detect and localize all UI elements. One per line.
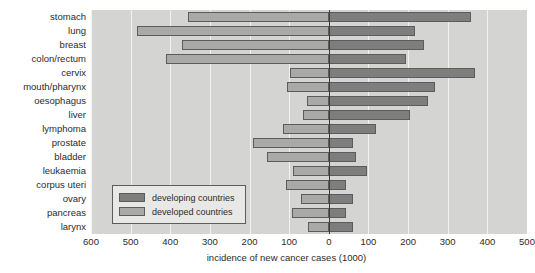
bar-developed-larynx: [308, 222, 329, 232]
bar-developed-ovary: [301, 194, 329, 204]
bar-developed-prostate: [253, 138, 329, 148]
y-label-leukaemia: leukaemia: [0, 165, 86, 176]
bar-row: [91, 166, 527, 179]
bar-developing-oesophagus: [329, 96, 428, 106]
x-tick-200-right: 200: [400, 236, 416, 247]
bar-row: [91, 82, 527, 95]
x-tick-200-left: 200: [242, 236, 258, 247]
zero-axis-line: [329, 10, 330, 234]
bar-row: [91, 124, 527, 137]
y-label-corpus-uteri: corpus uteri: [0, 179, 86, 190]
bar-developed-pancreas: [292, 208, 329, 218]
y-label-lung: lung: [0, 25, 86, 36]
bar-developed-oesophagus: [307, 96, 329, 106]
x-tick-500-right: 500: [519, 236, 535, 247]
x-tick-400-right: 400: [479, 236, 495, 247]
bar-developing-stomach: [329, 12, 471, 22]
bar-developing-leukaemia: [329, 166, 367, 176]
bar-developing-breast: [329, 40, 425, 50]
x-tick-500-left: 500: [123, 236, 139, 247]
bar-developed-colon-rectum: [166, 54, 329, 64]
x-tick-600-left: 600: [83, 236, 99, 247]
x-tick-100-right: 100: [361, 236, 377, 247]
bar-developed-liver: [303, 110, 329, 120]
y-label-mouth-pharynx: mouth/pharynx: [0, 81, 86, 92]
y-label-bladder: bladder: [0, 151, 86, 162]
legend-swatch-developed: [119, 207, 145, 216]
y-label-breast: breast: [0, 39, 86, 50]
y-label-liver: liver: [0, 109, 86, 120]
legend-swatch-developing: [119, 193, 145, 202]
bar-row: [91, 110, 527, 123]
bar-row: [91, 96, 527, 109]
bar-developing-lung: [329, 26, 415, 36]
bar-developed-lymphoma: [283, 124, 329, 134]
bar-developed-mouth-pharynx: [287, 82, 329, 92]
bar-row: [91, 54, 527, 67]
y-label-cervix: cervix: [0, 67, 86, 78]
bar-row: [91, 40, 527, 53]
y-axis-category-labels: stomachlungbreastcolon/rectumcervixmouth…: [0, 10, 86, 234]
bar-developing-mouth-pharynx: [329, 82, 435, 92]
bar-row: [91, 138, 527, 151]
bar-developing-liver: [329, 110, 411, 120]
bar-developing-cervix: [329, 68, 475, 78]
x-tick-400-left: 400: [162, 236, 178, 247]
x-tick-300-right: 300: [440, 236, 456, 247]
bar-developed-bladder: [267, 152, 329, 162]
legend-label-developed: developed countries: [152, 207, 233, 217]
legend-item-developed: developed countries: [119, 205, 239, 218]
bar-developing-pancreas: [329, 208, 346, 218]
bar-developed-leukaemia: [293, 166, 329, 176]
bar-developing-ovary: [329, 194, 354, 204]
y-label-oesophagus: oesophagus: [0, 95, 86, 106]
bar-developed-corpus-uteri: [286, 180, 329, 190]
y-label-pancreas: pancreas: [0, 207, 86, 218]
bar-row: [91, 152, 527, 165]
bar-developed-lung: [137, 26, 329, 36]
y-label-ovary: ovary: [0, 193, 86, 204]
legend-label-developing: developing countries: [152, 193, 235, 203]
y-label-prostate: prostate: [0, 137, 86, 148]
bar-developing-bladder: [329, 152, 356, 162]
chart-legend: developing countriesdeveloped countries: [112, 185, 246, 224]
y-label-colon-rectum: colon/rectum: [0, 53, 86, 64]
x-tick-100-left: 100: [281, 236, 297, 247]
x-axis-title: incidence of new cancer cases (1000): [0, 252, 527, 263]
bar-developing-lymphoma: [329, 124, 376, 134]
y-label-larynx: larynx: [0, 221, 86, 232]
bar-row: [91, 12, 527, 25]
bar-developed-cervix: [290, 68, 328, 78]
x-tick-0: 0: [326, 236, 331, 247]
x-tick-300-left: 300: [202, 236, 218, 247]
legend-item-developing: developing countries: [119, 191, 239, 204]
bar-developed-stomach: [188, 12, 329, 22]
y-label-lymphoma: lymphoma: [0, 123, 86, 134]
y-label-stomach: stomach: [0, 11, 86, 22]
bar-developing-prostate: [329, 138, 354, 148]
x-axis-tick-labels: 6005004003002001000100200300400500: [91, 236, 527, 252]
bar-developing-colon-rectum: [329, 54, 406, 64]
bar-developing-larynx: [329, 222, 354, 232]
bar-row: [91, 26, 527, 39]
bar-row: [91, 68, 527, 81]
bar-developing-corpus-uteri: [329, 180, 346, 190]
bar-developed-breast: [182, 40, 329, 50]
